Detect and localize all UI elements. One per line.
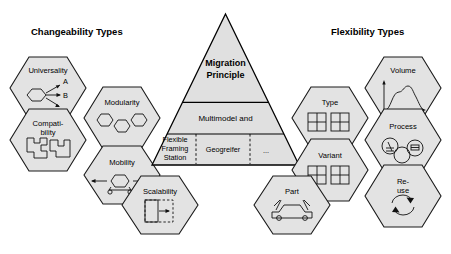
figure-canvas: Changeability Types Flexibility Types Un… bbox=[0, 0, 451, 254]
hex-reuse-label-line2: use bbox=[397, 186, 409, 195]
hex-process-label: Process bbox=[389, 122, 417, 131]
hex-variant-label: Variant bbox=[318, 151, 342, 160]
hex-compatibility-label-line1: Compati- bbox=[33, 119, 64, 128]
hex-reuse-label-line1: Re- bbox=[397, 177, 410, 186]
pyramid-cell-1-line3: Station bbox=[164, 153, 187, 162]
hex-volume-label: Volume bbox=[390, 66, 415, 75]
hex-universality-label: Universality bbox=[28, 66, 67, 75]
hex-modularity-label: Modularity bbox=[104, 98, 139, 107]
left-panel-title: Changeability Types bbox=[31, 26, 123, 37]
hex-universality-icon-label-a: A bbox=[63, 77, 68, 86]
hex-part-label: Part bbox=[285, 187, 300, 196]
pyramid-cell-3-line1: ... bbox=[263, 146, 269, 155]
pyramid-cell-2-line1: Geogreifer bbox=[206, 145, 241, 154]
hex-compatibility-label-line2: bility bbox=[40, 128, 55, 137]
right-panel-title: Flexibility Types bbox=[331, 26, 404, 37]
pyramid-top-line1: Migration bbox=[205, 58, 246, 68]
hex-mobility-label: Mobility bbox=[109, 158, 135, 167]
pyramid-cell-1-line2: Framing bbox=[162, 144, 189, 153]
pyramid-top-line2: Principle bbox=[206, 70, 244, 80]
pyramid-cell-1-line1: Flexible bbox=[162, 135, 187, 144]
hex-universality-icon-label-b: B bbox=[63, 91, 68, 100]
hex-scalability-label: Scalability bbox=[143, 187, 177, 196]
diagram-svg: Changeability Types Flexibility Types Un… bbox=[0, 0, 451, 254]
pyramid-middle-text: Multimodel and bbox=[198, 114, 252, 123]
hex-type-label: Type bbox=[322, 98, 338, 107]
